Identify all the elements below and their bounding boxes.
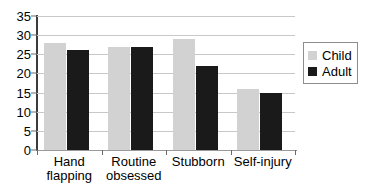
y-axis-tick-label: 5	[0, 124, 31, 137]
legend-item-adult[interactable]: Adult	[308, 63, 352, 79]
y-axis-tick-label: 30	[0, 29, 31, 42]
bar-chart: 05101520253035 ChildAdult HandflappingRo…	[0, 0, 365, 195]
bar-adult-hand-flapping	[67, 50, 89, 150]
y-axis-tick-label: 10	[0, 105, 31, 118]
y-axis-tick-mark	[31, 111, 37, 112]
y-axis-tick-label: 0	[0, 144, 31, 157]
x-axis-category-label-line: obsessed	[94, 169, 175, 183]
legend-item-child[interactable]: Child	[308, 47, 352, 63]
y-axis-tick-mark	[31, 35, 37, 36]
legend-item-label: Child	[322, 49, 352, 62]
bar-child-self-injury	[237, 89, 259, 150]
legend-swatch-icon	[308, 67, 317, 76]
x-axis-tick-mark	[37, 150, 38, 155]
bar-group	[108, 16, 153, 150]
y-axis-tick-label: 35	[0, 10, 31, 23]
bar-adult-stubborn	[196, 66, 218, 150]
y-axis-tick-mark	[31, 92, 37, 93]
x-axis-category-label: Self-injury	[223, 155, 304, 169]
y-axis-tick-label: 25	[0, 48, 31, 61]
bar-child-routine-obsessed	[108, 47, 130, 150]
bar-adult-routine-obsessed	[131, 47, 153, 150]
y-axis-tick-mark	[31, 54, 37, 55]
x-axis-tick-mark	[295, 150, 296, 155]
x-axis-category-label-line: Self-injury	[223, 155, 304, 169]
bar-child-hand-flapping	[44, 43, 66, 150]
legend-swatch-icon	[308, 51, 317, 60]
bar-child-stubborn	[173, 39, 195, 150]
y-axis-tick-labels: 05101520253035	[0, 0, 31, 195]
chart-legend: ChildAdult	[303, 42, 358, 84]
bar-adult-self-injury	[260, 93, 282, 150]
y-axis-tick-mark	[31, 73, 37, 74]
bar-group	[237, 16, 282, 150]
plot-area	[37, 16, 295, 150]
legend-item-label: Adult	[322, 65, 352, 78]
y-axis-tick-label: 20	[0, 67, 31, 80]
y-axis-tick-mark	[31, 130, 37, 131]
bar-group	[173, 16, 218, 150]
y-axis-tick-mark	[31, 16, 37, 17]
y-axis-tick-label: 15	[0, 86, 31, 99]
bar-group	[44, 16, 89, 150]
